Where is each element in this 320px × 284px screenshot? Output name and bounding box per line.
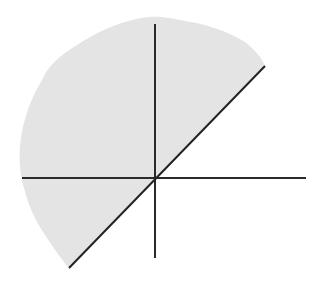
shaded-region bbox=[20, 17, 265, 268]
inequality-diagram bbox=[0, 0, 320, 284]
